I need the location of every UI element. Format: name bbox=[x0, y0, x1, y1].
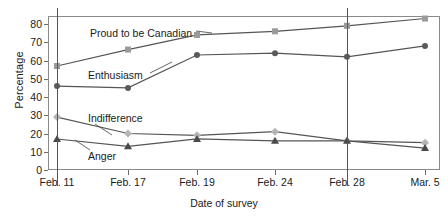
x-axis-tick-label: Mar. 5 bbox=[390, 176, 448, 188]
series-proud-to-be-canadian bbox=[54, 16, 428, 69]
reference-line bbox=[347, 8, 348, 186]
data-point-marker bbox=[422, 16, 428, 22]
y-axis-tick-label: 60 bbox=[0, 55, 42, 67]
data-point-marker bbox=[272, 28, 278, 34]
x-axis-title: Date of survey bbox=[0, 197, 448, 209]
data-point-marker bbox=[125, 85, 131, 91]
series-line bbox=[57, 46, 425, 88]
y-axis-tick-label: 0 bbox=[0, 164, 42, 176]
plot-area bbox=[48, 16, 440, 170]
y-axis-tick-label: 20 bbox=[0, 128, 42, 140]
series-enthusiasm bbox=[54, 43, 428, 91]
series-line bbox=[57, 139, 425, 148]
x-axis-tick-label: Feb. 24 bbox=[240, 176, 310, 188]
data-point-marker bbox=[125, 47, 131, 53]
y-axis-tick-label: 70 bbox=[0, 36, 42, 48]
x-axis-tick-mark bbox=[128, 170, 129, 175]
y-axis-tick-label: 80 bbox=[0, 18, 42, 30]
x-axis-tick-mark bbox=[275, 170, 276, 175]
x-axis-tick-mark bbox=[197, 170, 198, 175]
reference-line bbox=[57, 8, 58, 186]
y-axis-tick-label: 50 bbox=[0, 73, 42, 85]
x-axis-tick-mark bbox=[425, 170, 426, 175]
data-point-marker bbox=[422, 43, 428, 49]
survey-line-chart: Percentage 01020304050607080 Feb. 11Feb.… bbox=[0, 0, 448, 220]
y-axis-tick-mark bbox=[44, 170, 48, 171]
series-label-enthusiasm: Enthusiasm bbox=[88, 69, 143, 81]
series-label-anger: Anger bbox=[88, 150, 116, 162]
y-axis-tick-label: 40 bbox=[0, 91, 42, 103]
series-line bbox=[57, 19, 425, 66]
data-point-marker bbox=[271, 128, 279, 136]
series-layer bbox=[48, 16, 440, 170]
y-axis-tick-label: 30 bbox=[0, 109, 42, 121]
data-point-marker bbox=[124, 130, 132, 138]
data-point-marker bbox=[194, 52, 200, 58]
y-axis-tick-label: 10 bbox=[0, 146, 42, 158]
series-label-indifference: Indifference bbox=[88, 112, 143, 124]
data-point-marker bbox=[272, 50, 278, 56]
data-point-marker bbox=[194, 32, 200, 38]
series-label-proud-to-be-canadian: Proud to be Canadian bbox=[90, 27, 192, 39]
series-anger bbox=[53, 135, 429, 151]
x-axis-tick-label: Feb. 17 bbox=[93, 176, 163, 188]
x-axis-tick-label: Feb. 19 bbox=[162, 176, 232, 188]
